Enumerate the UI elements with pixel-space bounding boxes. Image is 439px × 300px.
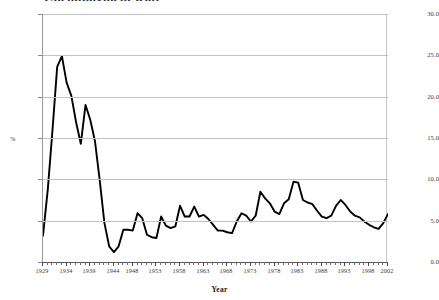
gridline-y (43, 14, 388, 15)
x-axis-tick-major (203, 262, 204, 266)
x-axis-tick (165, 262, 166, 265)
y-axis-tick-label: 15.0 (399, 135, 439, 142)
x-axis-tick (311, 262, 312, 265)
x-axis-tick (174, 262, 175, 265)
x-axis-tick (85, 262, 86, 265)
x-axis-tick (349, 262, 350, 265)
x-axis-tick-major (250, 262, 251, 266)
x-axis-tick-label: 1973 (237, 267, 263, 274)
x-axis-tick (170, 262, 171, 265)
y-axis-tick-label: 20.0 (399, 94, 439, 101)
y-axis-tick (38, 55, 42, 56)
x-axis-tick (160, 262, 161, 265)
x-axis-tick (217, 262, 218, 265)
gridline-y (43, 97, 388, 98)
x-axis-tick (288, 262, 289, 265)
x-axis-tick (151, 262, 152, 265)
x-axis-tick-label: 1953 (142, 267, 168, 274)
gridline-y (43, 55, 388, 56)
x-axis-tick (302, 262, 303, 265)
x-axis-tick (292, 262, 293, 265)
x-axis-tick (118, 262, 119, 265)
x-axis-tick (103, 262, 104, 265)
x-axis-tick (207, 262, 208, 265)
x-axis-tick-major (297, 262, 298, 266)
x-axis-tick (222, 262, 223, 265)
x-axis-tick-major (66, 262, 67, 266)
x-axis-tick (51, 262, 52, 265)
x-axis-tick (307, 262, 308, 265)
x-axis-tick (359, 262, 360, 265)
x-axis-tick (283, 262, 284, 265)
y-axis-tick-label: 0.0 (399, 259, 439, 266)
gridline-y (43, 179, 388, 180)
x-axis-tick (70, 262, 71, 265)
x-axis-tick-major (226, 262, 227, 266)
y-axis-tick-label: 30.0 (399, 11, 439, 18)
x-axis-tick (330, 262, 331, 265)
x-axis-title: Year (0, 285, 439, 294)
y-axis-tick (38, 97, 42, 98)
plot-area (42, 14, 387, 262)
y-axis-tick (38, 179, 42, 180)
y-axis-tick-label: 25.0 (399, 52, 439, 59)
x-axis-tick-label: 2002 (374, 267, 400, 274)
x-axis-tick (137, 262, 138, 265)
x-axis-tick-label: 1929 (29, 267, 55, 274)
x-axis-tick (335, 262, 336, 265)
x-axis-tick (259, 262, 260, 265)
x-axis-tick (240, 262, 241, 265)
x-axis-tick-major (368, 262, 369, 266)
x-axis-tick (316, 262, 317, 265)
x-axis-tick (269, 262, 270, 265)
x-axis-tick-major (89, 262, 90, 266)
y-axis-tick-label: 5.0 (399, 218, 439, 225)
x-axis-tick (80, 262, 81, 265)
x-axis-tick (108, 262, 109, 265)
chart-title: Unemployment Rate (44, 0, 162, 1)
x-axis-tick-major (132, 262, 133, 266)
x-axis-tick (340, 262, 341, 265)
x-axis-tick-label: 1983 (284, 267, 310, 274)
x-axis-tick (184, 262, 185, 265)
x-axis-tick (127, 262, 128, 265)
x-axis-tick (122, 262, 123, 265)
unemployment-line-chart: Unemployment Rate % Year 0.05.010.015.02… (0, 0, 439, 300)
x-axis-tick-label: 1939 (76, 267, 102, 274)
x-axis-tick (278, 262, 279, 265)
x-axis-tick (99, 262, 100, 265)
x-axis-tick-major (321, 262, 322, 266)
x-axis-tick (94, 262, 95, 265)
x-axis-tick (255, 262, 256, 265)
x-axis-tick (382, 262, 383, 265)
x-axis-tick-major (274, 262, 275, 266)
x-axis-tick (141, 262, 142, 265)
y-axis-unit-label: % (10, 135, 15, 142)
gridline-y (43, 221, 388, 222)
x-axis-tick (363, 262, 364, 265)
x-axis-tick (354, 262, 355, 265)
x-axis-tick (231, 262, 232, 265)
x-axis-tick (236, 262, 237, 265)
x-axis-tick (326, 262, 327, 265)
x-axis-tick (61, 262, 62, 265)
x-axis-tick (193, 262, 194, 265)
x-axis-tick (198, 262, 199, 265)
x-axis-tick-major (387, 262, 388, 266)
x-axis-tick-major (113, 262, 114, 266)
unemployment-rate-line (43, 56, 388, 252)
x-axis-tick (212, 262, 213, 265)
x-axis-tick-label: 1968 (213, 267, 239, 274)
gridline-y (43, 138, 388, 139)
x-axis-tick (75, 262, 76, 265)
x-axis-tick-major (155, 262, 156, 266)
x-axis-tick (264, 262, 265, 265)
x-axis-tick (378, 262, 379, 265)
x-axis-tick (56, 262, 57, 265)
x-axis-tick (146, 262, 147, 265)
y-axis-tick (38, 138, 42, 139)
x-axis-tick (189, 262, 190, 265)
x-axis-tick (47, 262, 48, 265)
x-axis-tick (373, 262, 374, 265)
x-axis-tick-label: 1958 (166, 267, 192, 274)
